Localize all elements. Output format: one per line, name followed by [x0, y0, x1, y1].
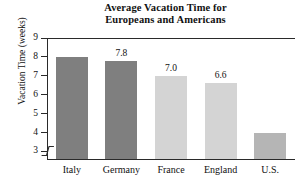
category-label-u-s: U.S. — [240, 164, 300, 175]
y-tick-label-9: 9 — [22, 33, 38, 43]
bars-layer — [47, 38, 295, 159]
bar-germany — [105, 61, 137, 159]
bar-chart-figure: Average Vacation Time for Europeans and … — [0, 0, 302, 188]
bar-u-s — [254, 133, 286, 159]
bar-england — [205, 83, 237, 159]
chart-title-line-2: Europeans and Americans — [38, 14, 293, 26]
bar-value-label-germany: 7.8 — [101, 49, 141, 59]
bar-value-label-france: 7.0 — [151, 64, 191, 74]
y-tick-label-6: 6 — [22, 90, 38, 100]
bar-italy — [56, 57, 88, 159]
bar-value-label-england: 6.6 — [201, 71, 241, 81]
y-tick-label-7: 7 — [22, 71, 38, 81]
y-tick-label-8: 8 — [22, 52, 38, 62]
y-tick-label-5: 5 — [22, 109, 38, 119]
chart-title: Average Vacation Time for Europeans and … — [38, 2, 293, 26]
y-tick-label-3: 3 — [22, 146, 38, 156]
y-tick-label-4: 4 — [22, 128, 38, 138]
chart-title-line-1: Average Vacation Time for — [38, 2, 293, 14]
x-axis-line — [47, 159, 295, 160]
bar-france — [155, 76, 187, 159]
